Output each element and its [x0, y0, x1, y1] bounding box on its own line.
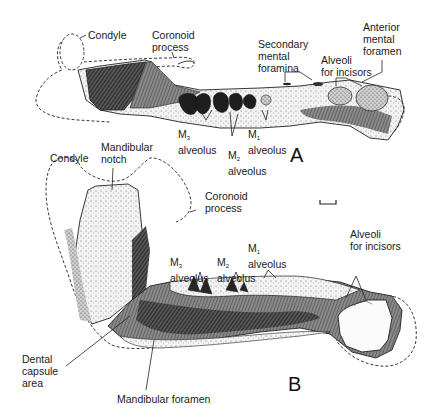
label-b-condyle: Condyle: [50, 152, 89, 164]
label-a-alveoli-for-incisors: Alveoli for incisors: [321, 54, 372, 78]
label-a-secondary-mental-foramina: Secondary mental foramina: [258, 38, 308, 74]
label-b-mandibular-foramen: Mandibular foramen: [117, 393, 210, 405]
label-b-coronoid-process: Coronoid process: [205, 190, 248, 214]
panel-a-drawing: [36, 34, 404, 140]
label-a-anterior-mental-foramen: Anterior mental foramen: [363, 21, 402, 57]
panel-label-a: A: [290, 145, 303, 165]
label-a-condyle: Condyle: [88, 29, 127, 41]
mandible-figure: Condyle Coronoid process Secondary menta…: [0, 0, 436, 416]
label-b-m3-alveolus: M3 alveolus: [170, 256, 209, 284]
panel-label-b: B: [288, 374, 301, 394]
label-a-m3-alveolus: M3 alveolus: [178, 128, 217, 156]
label-b-m1-alveolus: M1 alveolus: [248, 242, 287, 270]
label-b-alveoli-for-incisors: Alveoli for incisors: [350, 228, 401, 252]
scale-bar: [320, 200, 336, 204]
label-b-mandibular-notch: Mandibular notch: [101, 141, 153, 165]
label-a-coronoid-process: Coronoid process: [152, 29, 195, 53]
label-b-dental-capsule-area: Dental capsule area: [22, 353, 58, 389]
label-a-m1-alveolus: M1 alveolus: [248, 128, 287, 156]
